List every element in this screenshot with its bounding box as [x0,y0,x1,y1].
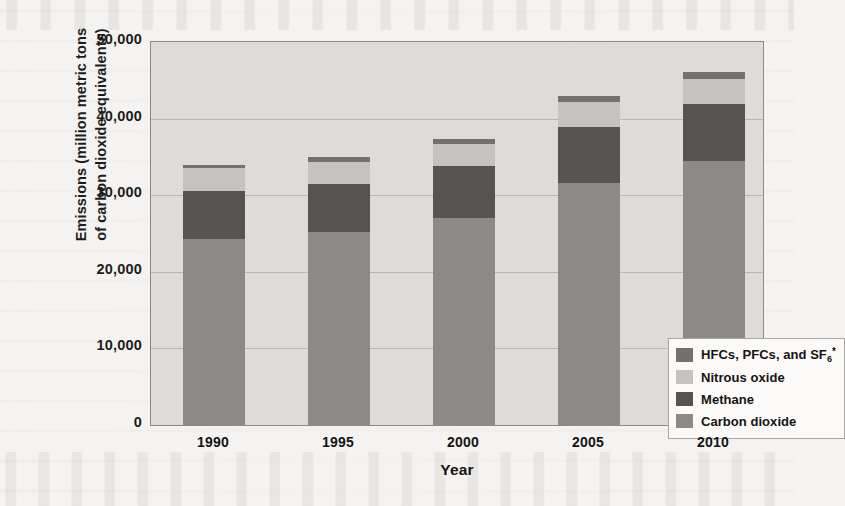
y-axis-tick-label: 0 [2,414,142,430]
plot-area: HFCs, PFCs, and SF6*Nitrous oxideMethane… [150,41,764,426]
legend-item[interactable]: Nitrous oxide [676,366,837,388]
legend-swatch [676,348,693,362]
x-axis-tick-label: 1990 [173,434,253,450]
legend-item[interactable]: HFCs, PFCs, and SF6* [676,344,837,366]
bar-segment[interactable] [183,165,245,168]
legend-item-label: Carbon dioxide [701,414,796,429]
bar-segment[interactable] [558,102,620,127]
bar-segment[interactable] [433,139,495,144]
bar-segment[interactable] [558,96,620,102]
chart-legend: HFCs, PFCs, and SF6*Nitrous oxideMethane… [668,338,845,439]
y-axis-tick-label: 40,000 [2,108,142,124]
x-axis-tick-labels: 19901995200020052010 [150,434,764,456]
legend-swatch [676,392,693,406]
y-axis-tick-label: 20,000 [2,261,142,277]
bar-segment[interactable] [558,127,620,183]
x-axis-tick-label: 2000 [423,434,503,450]
bar-segment[interactable] [308,162,370,184]
bar-segment[interactable] [308,157,370,162]
bar-segment[interactable] [183,239,245,425]
x-axis-tick-label: 2010 [673,434,753,450]
y-axis-tick-label: 30,000 [2,184,142,200]
legend-item-label: Methane [701,392,754,407]
bar-segment[interactable] [683,72,745,79]
bar-segment[interactable] [558,183,620,425]
bar-segment[interactable] [683,79,745,104]
bar-segment[interactable] [308,184,370,232]
x-axis-tick-label: 1995 [298,434,378,450]
bar-segment[interactable] [433,144,495,166]
bar-segment[interactable] [183,191,245,239]
legend-item-label: HFCs, PFCs, and SF6* [701,346,836,364]
bar-segment[interactable] [308,232,370,425]
bar-segment[interactable] [183,168,245,191]
y-axis-tick-labels: 010,00020,00030,00040,00050,000 [0,41,142,424]
legend-item[interactable]: Methane [676,388,837,410]
legend-swatch [676,370,693,384]
y-axis-tick-label: 50,000 [2,31,142,47]
bar-segment[interactable] [683,104,745,161]
bar-segment[interactable] [433,166,495,218]
y-axis-tick-label: 10,000 [2,337,142,353]
bar-segment[interactable] [433,218,495,425]
legend-swatch [676,414,693,428]
legend-item-label: Nitrous oxide [701,370,785,385]
x-axis-tick-label: 2005 [548,434,628,450]
legend-item[interactable]: Carbon dioxide [676,410,837,432]
x-axis-title: Year [150,461,764,479]
